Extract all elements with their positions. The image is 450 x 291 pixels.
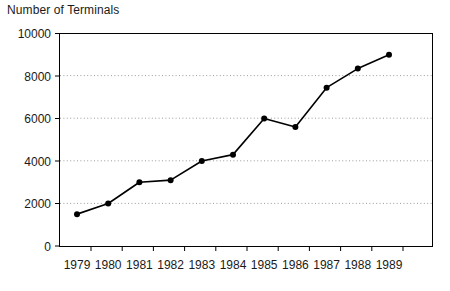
y-axis-labels: 10000 8000 6000 4000 2000 0	[18, 27, 52, 254]
y-axis-label-0: 0	[44, 240, 51, 254]
y-axis-label-10000: 10000	[18, 27, 52, 41]
y-axis-label-8000: 8000	[24, 70, 51, 84]
y-axis-label-4000: 4000	[24, 155, 51, 169]
x-axis-label-1984: 1984	[220, 258, 247, 272]
data-point-1979	[74, 211, 80, 217]
x-axis-label-1983: 1983	[188, 258, 215, 272]
data-point-1987	[324, 85, 330, 91]
data-series-line	[77, 55, 389, 214]
x-axis-label-1987: 1987	[313, 258, 340, 272]
x-axis-label-1981: 1981	[126, 258, 153, 272]
data-point-1985	[261, 116, 267, 122]
x-axis-label-1985: 1985	[251, 258, 278, 272]
x-axis-label-1982: 1982	[157, 258, 184, 272]
x-axis-labels: 1979 1980 1981 1982 1983 1984 1985 1986 …	[64, 258, 403, 272]
y-axis-label-2000: 2000	[24, 197, 51, 211]
data-point-1981	[136, 179, 142, 185]
data-point-1986	[292, 124, 298, 130]
x-axis-label-1989: 1989	[376, 258, 403, 272]
chart-container: Number of Terminals 10000 8000 6000 4000…	[0, 0, 450, 291]
x-axis-label-1979: 1979	[64, 258, 91, 272]
data-point-1983	[199, 158, 205, 164]
x-axis-label-1980: 1980	[95, 258, 122, 272]
x-axis-label-1988: 1988	[344, 258, 371, 272]
data-point-1988	[355, 66, 361, 72]
data-point-1984	[230, 152, 236, 158]
line-chart-plot: 10000 8000 6000 4000 2000 0 1979 1980 19…	[0, 0, 450, 291]
y-axis-label-6000: 6000	[24, 112, 51, 126]
x-axis-label-1986: 1986	[282, 258, 309, 272]
data-point-1982	[168, 177, 174, 183]
data-point-1989	[386, 52, 392, 58]
data-point-1980	[105, 201, 111, 207]
